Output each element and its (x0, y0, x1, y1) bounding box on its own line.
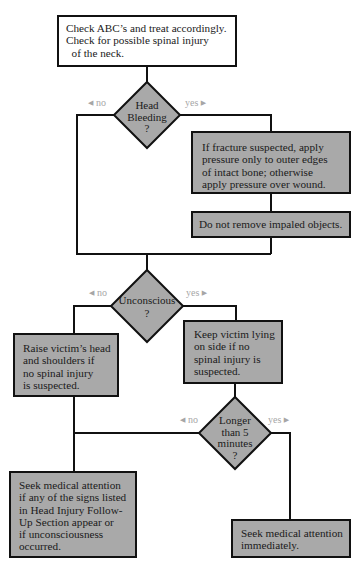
box-line: if any of the signs listed (19, 491, 128, 503)
decision-line: ? (117, 123, 177, 135)
no-label: ◀ no (88, 97, 106, 108)
yes-label-text: yes (185, 97, 198, 108)
box-line: of intact bone; otherwise (202, 166, 342, 178)
right-arrow-icon: ▶ (201, 99, 206, 107)
box-line: occurred. (19, 540, 128, 552)
box-line: no spinal injury (23, 367, 110, 379)
yes-label-text: yes (268, 414, 281, 425)
box-line: is suspected. (23, 379, 110, 391)
no-label-text: no (97, 287, 107, 298)
raise-head-box: Raise victim’s head and shoulders if no … (13, 333, 119, 397)
box-line: pressure only to outer edges (202, 153, 342, 165)
fracture-box: If fracture suspected, apply pressure on… (191, 131, 351, 194)
box-line: Keep victim lying (194, 328, 274, 340)
start-line-2: Check for possible spinal injury (66, 34, 228, 46)
keep-lying-box: Keep victim lying on side if no spinal i… (183, 320, 283, 384)
decision-line: ? (205, 450, 265, 462)
box-line: in Head Injury Follow- (19, 504, 128, 516)
box-line: If fracture suspected, apply (202, 141, 342, 153)
left-arrow-icon: ◀ (89, 289, 94, 297)
decision-text-head-bleeding: Head Bleeding ? (117, 100, 177, 135)
box-line: immediately. (241, 539, 342, 551)
yes-label: yes ▶ (185, 97, 206, 108)
start-line-1: Check ABC’s and treat accordingly. (66, 22, 228, 34)
decision-text-unconscious: Unconscious ? (111, 295, 183, 319)
left-arrow-icon: ◀ (180, 416, 185, 424)
box-line: suspected. (194, 365, 274, 377)
yes-label-text: yes (186, 287, 199, 298)
decision-line: Longer (205, 415, 265, 427)
box-line: Up Section appear or (19, 516, 128, 528)
no-label-text: no (96, 97, 106, 108)
box-line: Do not remove impaled objects. (199, 218, 342, 230)
box-line: spinal injury is (194, 353, 274, 365)
seek-attention-followup-box: Seek medical attention if any of the sig… (9, 471, 137, 558)
decision-line: Unconscious (111, 295, 183, 307)
yes-label: yes ▶ (268, 414, 289, 425)
box-line: Seek medical attention (241, 527, 342, 539)
no-label: ◀ no (180, 414, 198, 425)
start-box: Check ABC’s and treat accordingly. Check… (57, 15, 237, 67)
decision-text-longer-than-5-minutes: Longer than 5 minutes ? (205, 415, 265, 461)
left-arrow-icon: ◀ (88, 99, 93, 107)
box-line: Raise victim’s head (23, 342, 110, 354)
decision-line: minutes (205, 438, 265, 450)
box-line: and shoulders if (23, 354, 110, 366)
box-line: apply pressure over wound. (202, 178, 342, 190)
box-line: on side if no (194, 340, 274, 352)
box-line: Seek medical attention (19, 479, 128, 491)
seek-attention-immediately-box: Seek medical attention immediately. (231, 519, 351, 558)
right-arrow-icon: ▶ (202, 289, 207, 297)
yes-label: yes ▶ (186, 287, 207, 298)
no-label: ◀ no (89, 287, 107, 298)
box-line: if unconsciousness (19, 528, 128, 540)
impaled-objects-box: Do not remove impaled objects. (191, 211, 351, 238)
start-line-3: of the neck. (66, 47, 228, 59)
no-label-text: no (188, 414, 198, 425)
right-arrow-icon: ▶ (284, 416, 289, 424)
decision-line: ? (111, 308, 183, 320)
decision-line: Head (117, 100, 177, 112)
